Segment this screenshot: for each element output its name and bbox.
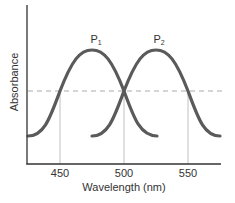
y-axis-label: Absorbance <box>8 53 20 112</box>
peak-label-p2: P2 <box>153 33 164 46</box>
absorbance-chart: P1 P2 450 500 550 Wavelength (nm) Absorb… <box>0 0 235 203</box>
x-tick-550: 550 <box>179 167 197 179</box>
x-tick-450: 450 <box>51 167 69 179</box>
peak-label-p1: P1 <box>90 33 101 46</box>
x-axis-label: Wavelength (nm) <box>82 181 165 193</box>
x-tick-500: 500 <box>115 167 133 179</box>
peak-label-p1-sub: 1 <box>98 39 102 46</box>
peak-label-p2-sub: 2 <box>161 39 165 46</box>
